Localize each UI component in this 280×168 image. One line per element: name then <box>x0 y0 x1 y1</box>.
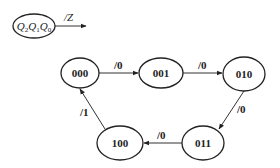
state-001: 001 <box>139 58 183 88</box>
legend: Q2Q1Q0 /Z <box>13 11 86 38</box>
legend-output-label: /Z <box>63 11 74 23</box>
edge-label-001-010: /0 <box>197 59 207 71</box>
state-diagram: Q2Q1Q0 /Z /0 /0 /0 /0 /1 000 001 010 <box>0 0 280 168</box>
state-011: 011 <box>182 126 224 160</box>
legend-state-vars: Q2Q1Q0 <box>17 20 52 34</box>
edge-label-100-000: /1 <box>79 106 89 118</box>
edge-label-011-100: /0 <box>156 129 166 141</box>
state-100: 100 <box>97 126 143 160</box>
state-label: 100 <box>112 137 129 149</box>
state-label: 001 <box>153 67 170 79</box>
state-label: 000 <box>72 67 89 79</box>
state-label: 010 <box>236 68 253 80</box>
edge-label-010-011: /0 <box>236 103 246 115</box>
state-000: 000 <box>61 58 99 88</box>
edge-label-000-001: /0 <box>113 59 123 71</box>
state-label: 011 <box>195 137 211 149</box>
state-010: 010 <box>223 57 265 91</box>
